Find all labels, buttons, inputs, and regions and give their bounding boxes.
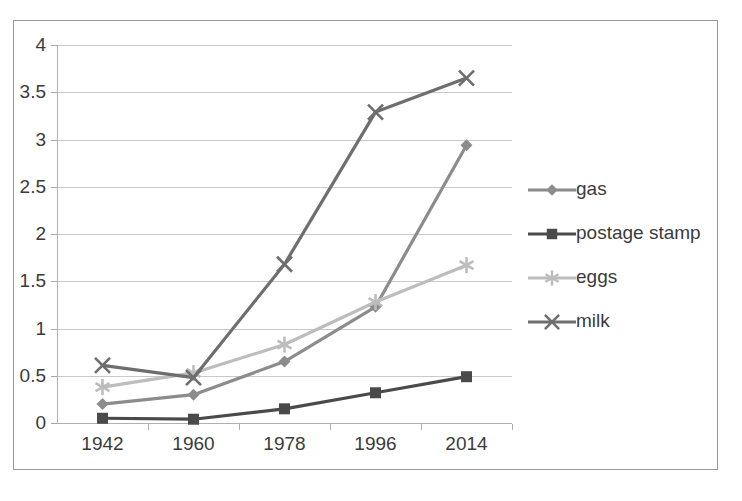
y-axis-tick-label: 1 bbox=[0, 319, 46, 338]
x-axis-tick-label: 2014 bbox=[427, 434, 507, 453]
gridline bbox=[57, 376, 512, 377]
line-chart: 43.532.521.510.50 19421960197819962014 g… bbox=[0, 0, 742, 501]
gridline bbox=[57, 329, 512, 330]
legend-entry-eggs[interactable]: eggs bbox=[528, 254, 708, 298]
legend-label: eggs bbox=[576, 267, 617, 286]
gridline bbox=[57, 140, 512, 141]
y-axis-tick-label: 3.5 bbox=[0, 82, 46, 101]
chart-legend: gaspostage stampeggsmilk bbox=[528, 166, 708, 342]
legend-label: gas bbox=[576, 179, 607, 198]
gridline bbox=[57, 45, 512, 46]
x-tick-mark bbox=[239, 424, 240, 430]
x-tick-mark bbox=[330, 424, 331, 430]
legend-label: milk bbox=[576, 311, 610, 330]
gridline bbox=[57, 234, 512, 235]
legend-label: postage stamp bbox=[576, 223, 701, 242]
x-axis-tick-label: 1996 bbox=[336, 434, 416, 453]
legend-swatch-x-icon bbox=[528, 312, 576, 328]
y-axis-tick-label: 2 bbox=[0, 224, 46, 243]
diamond-marker bbox=[546, 184, 557, 195]
gridline bbox=[57, 187, 512, 188]
legend-entry-postage-stamp[interactable]: postage stamp bbox=[528, 210, 708, 254]
square-marker bbox=[547, 229, 557, 239]
x-tick-mark bbox=[512, 424, 513, 430]
legend-swatch-square-icon bbox=[528, 224, 576, 240]
gridline bbox=[57, 92, 512, 93]
y-axis-tick-label: 1.5 bbox=[0, 271, 46, 290]
legend-swatch-star-icon bbox=[528, 268, 576, 284]
x-tick-mark bbox=[421, 424, 422, 430]
y-axis-tick-label: 0.5 bbox=[0, 366, 46, 385]
x-tick-mark bbox=[148, 424, 149, 430]
gridline bbox=[57, 281, 512, 282]
y-axis-line bbox=[57, 45, 58, 424]
y-axis-tick-label: 3 bbox=[0, 130, 46, 149]
x-axis-tick-label: 1978 bbox=[245, 434, 325, 453]
x-axis-tick-label: 1942 bbox=[63, 434, 143, 453]
legend-entry-milk[interactable]: milk bbox=[528, 298, 708, 342]
legend-entry-gas[interactable]: gas bbox=[528, 166, 708, 210]
legend-swatch-diamond-icon bbox=[528, 180, 576, 196]
x-axis-line bbox=[57, 423, 512, 424]
x-axis-tick-label: 1960 bbox=[154, 434, 234, 453]
y-axis-tick-label: 4 bbox=[0, 35, 46, 54]
y-axis-tick-label: 2.5 bbox=[0, 177, 46, 196]
y-axis-tick-label: 0 bbox=[0, 413, 46, 432]
